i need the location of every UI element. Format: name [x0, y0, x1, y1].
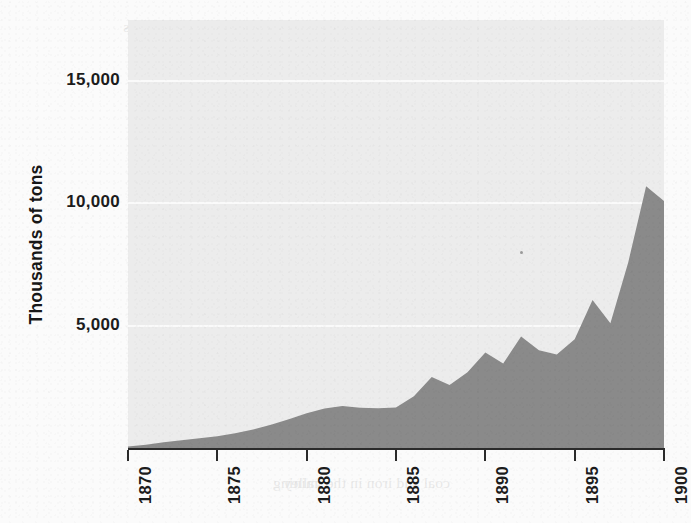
x-tick — [216, 450, 218, 461]
x-tick-label: 1870 — [136, 466, 155, 504]
x-tick — [484, 450, 486, 461]
y-tick-label: 15,000 — [66, 70, 120, 90]
x-tick-label: 1890 — [493, 466, 512, 504]
area-series — [128, 20, 664, 448]
y-axis-label: Thousands of tons — [26, 145, 47, 345]
y-tick-label: 10,000 — [66, 192, 120, 212]
x-tick — [306, 450, 308, 461]
x-tick-label: 1875 — [225, 466, 244, 504]
x-tick-label: 1885 — [404, 466, 423, 504]
y-tick-label: 5,000 — [76, 315, 120, 335]
x-tick-label: 1900 — [672, 466, 691, 504]
x-tick — [663, 450, 665, 461]
area-path — [128, 186, 664, 448]
x-tick — [574, 450, 576, 461]
chart-figure: 1870187518801885189018951900 5,00010,000… — [0, 0, 691, 523]
print-speck — [520, 251, 523, 254]
x-tick — [395, 450, 397, 461]
x-tick — [127, 450, 129, 461]
x-tick-label: 1880 — [315, 466, 334, 504]
x-tick-label: 1895 — [583, 466, 602, 504]
